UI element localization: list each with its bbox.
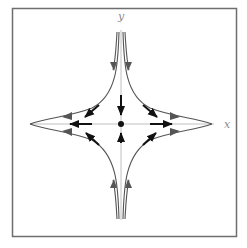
figure-frame — [13, 9, 237, 237]
y-axis-label: y — [117, 10, 125, 23]
equilibrium-point — [118, 121, 124, 127]
saddle-phase-portrait: y x — [0, 0, 247, 248]
x-axis-label: x — [224, 118, 231, 131]
